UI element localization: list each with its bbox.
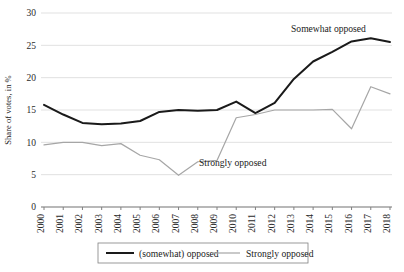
y-axis-tick-labels: 051015202530: [27, 8, 37, 212]
x-axis-tick-label: 2002: [74, 214, 84, 233]
y-axis-tick-label: 0: [31, 202, 36, 212]
chart-annotations-group: Somewhat opposedStrongly opposed: [199, 23, 366, 168]
y-axis-tick-label: 5: [31, 170, 36, 180]
y-axis-tick-label: 30: [27, 8, 37, 18]
y-axis-tick-label: 10: [27, 138, 37, 148]
x-axis-tick-label: 2001: [55, 214, 65, 233]
legend-label-somewhat-opposed: (somewhat) opposed: [139, 248, 219, 260]
legend-label-strongly-opposed: Strongly opposed: [246, 248, 314, 259]
x-axis-tick-label: 2006: [151, 214, 161, 233]
x-axis-tick-label: 2018: [382, 214, 392, 233]
x-axis-tick-label: 2014: [305, 214, 315, 233]
x-axis-tick-label: 2011: [247, 214, 257, 233]
x-axis-tick-label: 2009: [209, 214, 219, 233]
series-line-somewhat-opposed: [44, 38, 390, 124]
x-axis-tick-label: 2013: [286, 214, 296, 233]
x-axis-tick-label: 2017: [363, 214, 373, 233]
chart-annotation-somewhat-opposed: Somewhat opposed: [291, 23, 366, 34]
x-axis-tick-label: 2016: [344, 214, 354, 233]
x-axis-tick-label: 2003: [94, 214, 104, 233]
x-axis-tick-label: 2012: [267, 214, 277, 233]
x-axis-tick-label: 2007: [171, 214, 181, 233]
x-axis-tick-label: 2000: [36, 214, 46, 233]
y-axis-title: Share of votes, in %: [3, 75, 13, 144]
chart-annotation-strongly-opposed: Strongly opposed: [199, 157, 267, 168]
x-axis-tick-label: 2008: [190, 214, 200, 233]
y-axis-tick-label: 25: [27, 41, 37, 51]
y-axis-tick-label: 15: [27, 105, 37, 115]
chart-legend: (somewhat) opposed Strongly opposed: [98, 243, 314, 263]
x-axis-tick-label: 2015: [324, 214, 334, 233]
line-chart: 051015202530 Share of votes, in % 200020…: [0, 0, 404, 272]
x-axis-tick-label: 2010: [228, 214, 238, 233]
x-axis-tick-label: 2004: [113, 214, 123, 233]
x-axis-tick-label: 2005: [132, 214, 142, 233]
x-axis-tick-labels: 2000200120022003200420052006200720082009…: [36, 214, 392, 233]
y-axis-tick-label: 20: [27, 73, 37, 83]
chart-canvas: 051015202530 Share of votes, in % 200020…: [0, 0, 404, 272]
